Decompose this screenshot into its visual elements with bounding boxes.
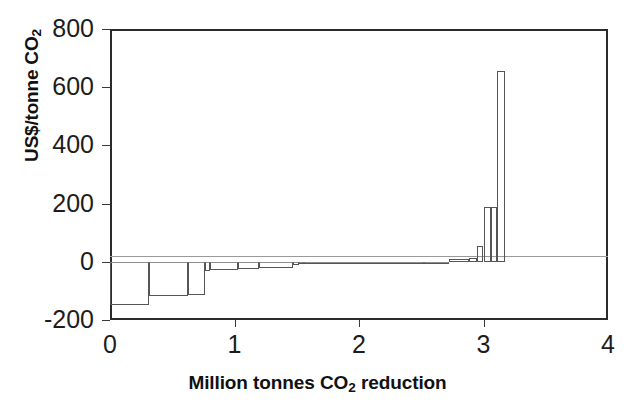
y-tick-mark	[102, 87, 110, 88]
x-tick-label: 1	[205, 330, 265, 359]
y-tick-label: 0	[8, 249, 94, 274]
x-tick-label: 3	[454, 330, 514, 359]
y-tick-mark	[102, 29, 110, 30]
x-axis-title: Million tonnes CO2 reduction	[0, 372, 635, 395]
x-tick-label: 4	[578, 330, 635, 359]
x-tick-label: 0	[80, 330, 140, 359]
y-tick-label: -200	[8, 307, 94, 332]
bar-segment	[149, 262, 189, 296]
bar-segment	[469, 258, 478, 261]
y-tick-mark	[102, 320, 110, 321]
y-tick-mark	[102, 204, 110, 205]
x-tick-mark	[359, 320, 360, 327]
x-tick-mark	[235, 320, 236, 327]
x-tick-mark	[484, 320, 485, 327]
bar-segment	[304, 262, 424, 264]
y-tick-label: 400	[8, 132, 94, 157]
abatement-cost-chart: US$/tonne CO2 8006004002000-200 01234 Mi…	[0, 0, 635, 408]
bar-segment	[188, 262, 204, 295]
y-tick-label: 600	[8, 74, 94, 99]
bar-segment	[497, 71, 504, 262]
bar-segment	[484, 207, 491, 262]
bar-series	[110, 29, 608, 320]
bar-segment	[210, 262, 239, 270]
bar-segment	[110, 262, 149, 305]
y-tick-mark	[102, 145, 110, 146]
y-tick-label: 200	[8, 191, 94, 216]
bar-segment	[238, 262, 259, 269]
bar-segment	[259, 262, 293, 268]
bar-segment	[449, 259, 469, 261]
x-tick-label: 2	[329, 330, 389, 359]
bar-segment	[424, 262, 449, 264]
y-tick-label: 800	[8, 16, 94, 41]
y-tick-mark	[102, 262, 110, 263]
